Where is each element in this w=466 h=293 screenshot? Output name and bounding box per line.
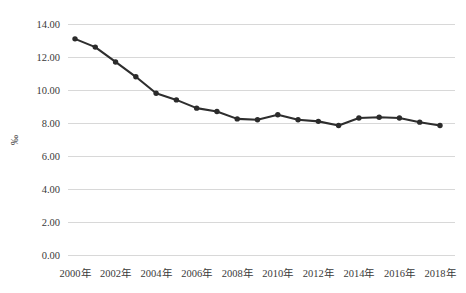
data-point xyxy=(295,117,300,122)
x-axis-tick-label: 2018年 xyxy=(425,267,456,279)
y-axis-tick-label: 4.00 xyxy=(42,184,60,195)
data-point xyxy=(214,109,219,114)
data-point xyxy=(113,59,118,64)
data-point xyxy=(194,105,199,110)
chart-background xyxy=(0,0,466,293)
data-point xyxy=(133,74,138,79)
line-chart: 0.002.004.006.008.0010.0012.0014.00 2000… xyxy=(0,0,466,293)
data-point xyxy=(255,117,260,122)
y-axis-tick-label: 6.00 xyxy=(42,151,60,162)
x-axis-tick-label: 2004年 xyxy=(141,267,172,279)
y-axis-title: ‰ xyxy=(9,135,20,145)
y-axis-tick-label: 14.00 xyxy=(36,19,60,30)
x-axis-tick-label: 2012年 xyxy=(303,267,334,279)
y-axis-tick-label: 0.00 xyxy=(42,250,60,261)
data-point xyxy=(93,44,98,49)
data-point xyxy=(153,91,158,96)
y-axis-tick-label: 12.00 xyxy=(36,52,60,63)
x-axis-tick-label: 2006年 xyxy=(181,267,212,279)
x-axis-tick-label: 2010年 xyxy=(262,267,293,279)
x-axis-tick-label: 2016年 xyxy=(384,267,415,279)
y-axis-tick-label: 10.00 xyxy=(36,85,60,96)
data-point xyxy=(235,116,240,121)
y-axis-tick-label: 8.00 xyxy=(42,118,60,129)
data-point xyxy=(72,36,77,41)
data-point xyxy=(275,112,280,117)
data-point xyxy=(376,115,381,120)
data-point xyxy=(437,123,442,128)
data-point xyxy=(417,119,422,124)
x-axis-tick-label: 2014年 xyxy=(343,267,374,279)
x-axis-tick-label: 2002年 xyxy=(100,267,131,279)
data-point xyxy=(356,115,361,120)
data-point xyxy=(174,97,179,102)
data-point xyxy=(397,115,402,120)
chart-canvas: 0.002.004.006.008.0010.0012.0014.00 2000… xyxy=(0,0,466,293)
x-axis-tick-label: 2000年 xyxy=(60,267,91,279)
data-point xyxy=(336,123,341,128)
data-point xyxy=(316,119,321,124)
y-axis-tick-label: 2.00 xyxy=(42,217,60,228)
x-axis-tick-label: 2008年 xyxy=(222,267,253,279)
